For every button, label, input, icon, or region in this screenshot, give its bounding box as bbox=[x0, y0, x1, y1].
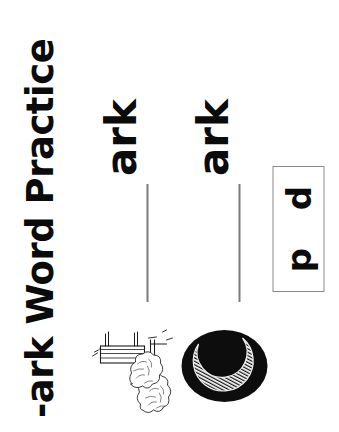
letter-bank-option-p[interactable]: p bbox=[281, 248, 315, 272]
letter-bank-option-d[interactable]: d bbox=[281, 186, 315, 210]
park-bench-with-trees-illustration bbox=[86, 314, 178, 418]
worksheet-content: -ark Word Practice bbox=[0, 0, 339, 432]
word-row: ark bbox=[178, 10, 270, 422]
page-title: -ark Word Practice bbox=[18, 39, 61, 418]
word-ending: ark bbox=[100, 99, 142, 176]
letter-bank: p d bbox=[272, 166, 324, 292]
write-on-blank-line[interactable] bbox=[238, 184, 240, 302]
worksheet-page: -ark Word Practice bbox=[0, 0, 339, 432]
crescent-moon-dark-night-illustration bbox=[178, 314, 270, 418]
write-on-blank-line[interactable] bbox=[146, 184, 148, 302]
word-row: ark bbox=[86, 10, 178, 422]
word-ending: ark bbox=[192, 99, 234, 176]
word-practice-rows: ark bbox=[86, 10, 270, 422]
